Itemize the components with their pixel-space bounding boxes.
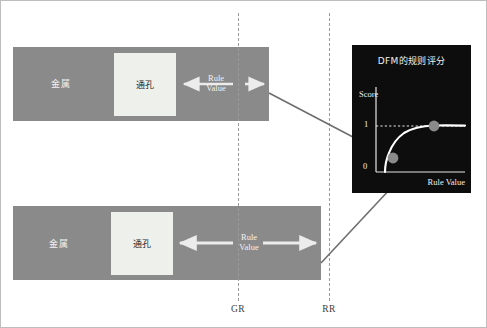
guide-label-rr: RR xyxy=(317,304,341,314)
via-label-top: 通孔 xyxy=(114,78,176,91)
via-square-bottom: 通孔 xyxy=(111,212,173,275)
chart-marker-rr xyxy=(429,121,440,132)
dfm-rule-score-diagram: 金属 通孔 Rule Value 金属 通孔 Rule Value GR RR xyxy=(0,0,487,328)
rule-value-line2-top: Value xyxy=(199,84,233,94)
chart-plot xyxy=(352,45,471,193)
metal-label-top: 金属 xyxy=(51,77,70,90)
via-square-top: 通孔 xyxy=(114,53,176,116)
guide-line-gr xyxy=(238,13,239,301)
metal-label-bottom: 金属 xyxy=(49,237,68,250)
chart-score-curve xyxy=(385,125,465,172)
chart-marker-gr xyxy=(388,153,399,164)
rule-value-label-top: Rule Value xyxy=(199,74,233,93)
guide-line-rr xyxy=(329,13,330,301)
dfm-score-chart-panel: DFM的规则评分 Score Rule Value 1 0 xyxy=(352,45,471,193)
guide-label-gr: GR xyxy=(226,304,250,314)
via-label-bottom: 通孔 xyxy=(111,237,173,250)
